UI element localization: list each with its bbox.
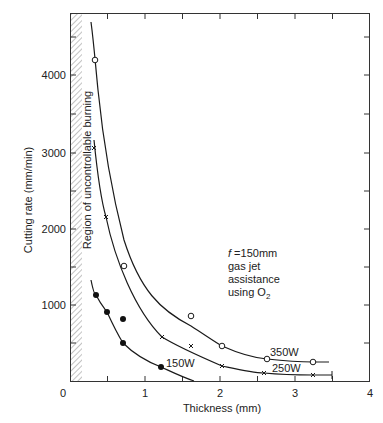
y-tick-label: 2000 xyxy=(42,223,66,235)
y-tick-label: 4000 xyxy=(42,69,66,81)
note-focal-length: =150mm xyxy=(231,247,277,259)
region-annotation: Region of uncontrollable burning xyxy=(81,91,93,249)
x-tick-label: 0 xyxy=(60,387,66,399)
x-axis-title: Thickness (mm) xyxy=(183,402,261,414)
note-subscript: 2 xyxy=(266,292,271,301)
note-line-3: assistance xyxy=(228,273,280,285)
y-axis-title: Cutting rate (mm/min) xyxy=(22,147,34,253)
note-line-4: using O xyxy=(228,286,266,298)
svg-text:using O2: using O2 xyxy=(228,286,271,301)
label-350w: 350W xyxy=(270,346,299,358)
x-tick-label: 2 xyxy=(217,387,223,399)
plot-frame xyxy=(70,13,370,382)
markers-150w xyxy=(93,292,164,370)
svg-text:f =150mm: f =150mm xyxy=(228,247,277,259)
y-tick-label: 1000 xyxy=(42,299,66,311)
conditions-note: f =150mm gas jet assistance using O2 xyxy=(228,247,280,301)
x-tick-label: 1 xyxy=(142,387,148,399)
y-axis-ticks xyxy=(71,37,369,343)
curve-350w xyxy=(91,22,329,362)
note-line-2: gas jet xyxy=(228,260,260,272)
label-250w: 250W xyxy=(272,362,301,374)
x-tick-label: 4 xyxy=(367,387,373,399)
chart-figure: 0 1 2 3 4 1000 2000 3000 4000 Thickness … xyxy=(0,0,383,423)
x-tick-label: 3 xyxy=(292,387,298,399)
x-axis-ticks xyxy=(108,14,333,381)
label-150w: 150W xyxy=(166,357,195,369)
y-tick-label: 3000 xyxy=(42,147,66,159)
